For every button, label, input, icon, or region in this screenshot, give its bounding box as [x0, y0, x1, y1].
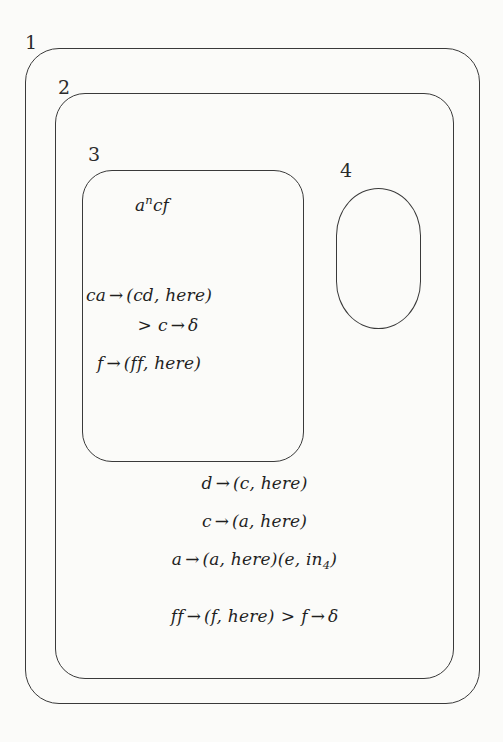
- membrane-region-4: [336, 188, 421, 329]
- rule-rhs-first: (a, here): [202, 549, 277, 569]
- rightarrow-icon: →: [213, 473, 233, 493]
- membrane-label-1: 1: [25, 33, 37, 52]
- region-2-rule-3: a→(a, here)(e, in4): [55, 550, 454, 569]
- multiset-rest: cf: [153, 195, 169, 215]
- rightarrow-icon: →: [106, 285, 126, 305]
- rightarrow-icon: →: [182, 549, 202, 569]
- rule-lhs: d: [202, 473, 213, 493]
- membrane-label-2: 2: [58, 78, 70, 97]
- rightarrow-icon: →: [168, 315, 188, 335]
- rule-rhs-second-open: (e, in: [278, 549, 323, 569]
- rule-lhs: c: [202, 511, 212, 531]
- region-2-rule-2: c→(a, here): [55, 512, 454, 531]
- rule-rhs: δ: [188, 315, 198, 335]
- region-2-rule-4: ff→(f, here)>f→δ: [55, 607, 454, 626]
- rule-rhs-secondary: δ: [328, 606, 338, 626]
- rightarrow-icon: →: [212, 511, 232, 531]
- rule-rhs: (f, here): [204, 606, 275, 626]
- rightarrow-icon: →: [308, 606, 328, 626]
- rule-lhs: ca: [86, 285, 106, 305]
- membrane-label-3: 3: [88, 145, 100, 164]
- rule-lhs: c: [158, 315, 168, 335]
- rightarrow-icon: →: [104, 353, 124, 373]
- region-2-rule-1: d→(c, here): [55, 474, 454, 493]
- multiset-exponent: n: [145, 193, 153, 207]
- membrane-diagram-canvas: 1 2 3 4 ancf ca→(cd, here) >c→δ f→(ff, h…: [0, 0, 503, 742]
- priority-operator: >: [132, 315, 158, 335]
- rightarrow-icon: →: [184, 606, 204, 626]
- rule-rhs: (ff, here): [124, 353, 201, 373]
- membrane-label-4: 4: [340, 161, 352, 180]
- rule-rhs: (c, here): [233, 473, 308, 493]
- region-3-rule-3: f→(ff, here): [0, 354, 298, 373]
- region-3-rule-1: ca→(cd, here): [0, 286, 298, 305]
- priority-operator: >: [275, 606, 301, 626]
- rule-lhs: a: [172, 549, 182, 569]
- region-3-rule-2: >c→δ: [0, 316, 330, 335]
- rule-rhs: (a, here): [232, 511, 307, 531]
- region-3-multiset: ancf: [0, 196, 304, 215]
- rule-rhs: (cd, here): [126, 285, 212, 305]
- rule-rhs-second-close: ): [330, 549, 337, 569]
- multiset-base: a: [135, 195, 145, 215]
- rule-lhs: ff: [171, 606, 184, 626]
- rule-lhs-secondary: f: [301, 606, 308, 626]
- rule-lhs: f: [97, 353, 104, 373]
